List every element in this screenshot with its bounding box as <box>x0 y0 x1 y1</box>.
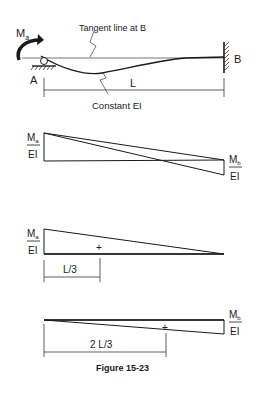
svg-text:2 L/3: 2 L/3 <box>90 339 113 350</box>
moment-diagram-mb: + Mb EI 2 L/3 <box>44 309 242 357</box>
centroid-mark: + <box>162 322 168 333</box>
svg-text:EI: EI <box>28 245 37 256</box>
support-a-label: A <box>30 74 38 86</box>
figure-canvas: Ma Tangent line at B A B <box>0 0 258 394</box>
pin-support-icon <box>41 58 48 65</box>
svg-text:EI: EI <box>230 171 239 182</box>
centroid-mark: + <box>96 242 102 253</box>
stiffness-label: Constant EI <box>92 100 142 111</box>
moment-diagram-combined: Ma EI Mb EI <box>27 132 242 182</box>
moment-diagram-ma: Ma EI + L/3 <box>27 228 224 282</box>
svg-text:L/3: L/3 <box>63 264 77 275</box>
moment-label: Ma <box>16 27 29 41</box>
svg-text:EI: EI <box>230 326 239 337</box>
deflected-beam <box>41 56 224 74</box>
ma-label: Ma <box>27 132 39 144</box>
figure-caption: Figure 15-23 <box>96 363 149 373</box>
tangent-label: Tangent line at B <box>79 23 146 33</box>
svg-text:Ma: Ma <box>27 228 39 240</box>
support-b-label: B <box>234 53 241 65</box>
svg-text:EI: EI <box>28 149 37 160</box>
beam-sketch: Ma Tangent line at B A B <box>16 23 241 111</box>
moment-arrow-icon <box>18 40 40 60</box>
mb-label: Mb <box>229 154 241 166</box>
svg-text:Mb: Mb <box>229 309 241 321</box>
span-label: L <box>130 77 136 89</box>
tangent-leader <box>90 31 96 57</box>
